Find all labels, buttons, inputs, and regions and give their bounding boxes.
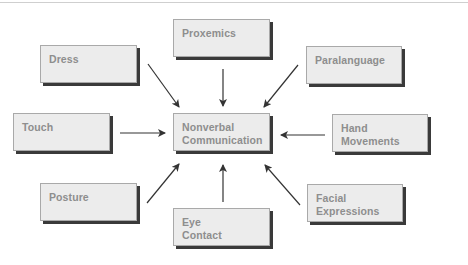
node-label-line1: Proxemics [182, 27, 269, 40]
arrow-facial-expressions-to-center [265, 165, 300, 205]
node-label-line1: Posture [49, 191, 136, 204]
node-hand-movements: Hand Movements [332, 114, 428, 152]
node-touch: Touch [13, 113, 110, 151]
node-label-line1: Facial [316, 192, 402, 205]
node-label-line1: Touch [22, 121, 109, 134]
node-label-line2: Contact [182, 229, 269, 242]
node-eye-contact: Eye Contact [173, 208, 270, 246]
arrow-posture-to-center [147, 164, 179, 203]
node-center-nonverbal-communication: Nonverbal Communication [173, 113, 270, 151]
node-label-line1: Paralanguage [315, 54, 401, 67]
node-facial-expressions: Facial Expressions [307, 184, 403, 222]
node-label-line1: Hand [341, 122, 427, 135]
node-label-line2: Movements [341, 135, 427, 148]
node-label-line1: Nonverbal [182, 121, 269, 134]
node-label-line2: Communication [182, 134, 269, 147]
node-proxemics: Proxemics [173, 19, 270, 57]
arrow-dress-to-center [148, 64, 179, 107]
node-label-line1: Eye [182, 216, 269, 229]
arrow-paralanguage-to-center [264, 65, 298, 107]
node-label-line1: Dress [49, 53, 136, 66]
node-dress: Dress [40, 45, 137, 83]
node-paralanguage: Paralanguage [306, 46, 402, 84]
node-posture: Posture [40, 183, 137, 221]
node-label-line2: Expressions [316, 205, 402, 218]
